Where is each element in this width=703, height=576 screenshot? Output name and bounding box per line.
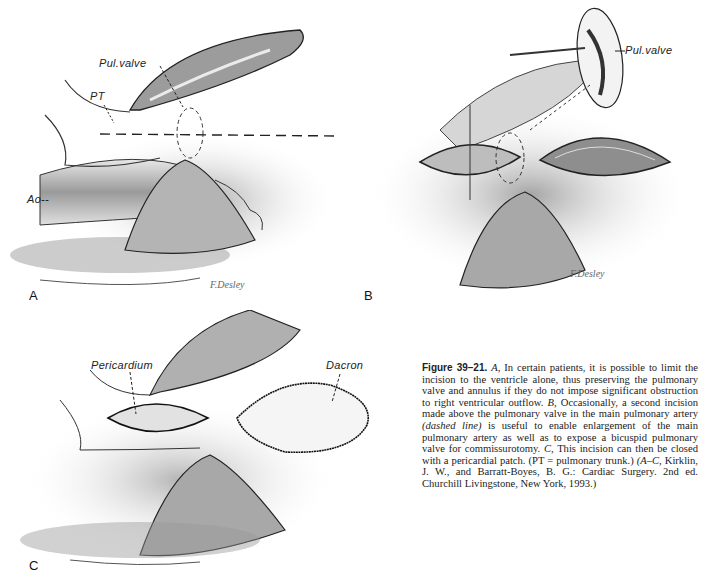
caption-italic: (dashed line)	[422, 420, 482, 431]
panel-c: Pericardium Dacron C	[0, 310, 420, 576]
label-pt: PT	[90, 90, 105, 102]
panel-b: F.Desley Pul.valve B	[360, 0, 703, 310]
panel-a-illustration: F.Desley	[0, 0, 350, 310]
panel-letter-c: C	[29, 558, 38, 573]
panel-letter-b: B	[364, 288, 373, 303]
caption-italic: A,	[491, 362, 500, 373]
label-pul-valve: Pul.valve	[99, 57, 146, 69]
signature: F.Desley	[569, 268, 605, 279]
caption-italic: B,	[548, 397, 557, 408]
signature: F.Desley	[209, 279, 245, 290]
panel-a: F.Desley Pul.valve PT Ao-- A	[0, 0, 350, 310]
figure-caption: Figure 39–21. A, In certain patients, it…	[422, 362, 698, 490]
caption-italic: C,	[544, 443, 554, 454]
label-dacron: Dacron	[326, 359, 363, 371]
caption-italic: (A–C,	[637, 455, 662, 466]
panel-letter-a: A	[29, 288, 38, 303]
label-pericardium: Pericardium	[91, 359, 153, 371]
label-pul-valve-b: Pul.valve	[625, 44, 672, 56]
panel-c-illustration	[0, 310, 420, 576]
label-ao: Ao--	[27, 193, 49, 205]
figure-number: Figure 39–21.	[422, 362, 487, 373]
